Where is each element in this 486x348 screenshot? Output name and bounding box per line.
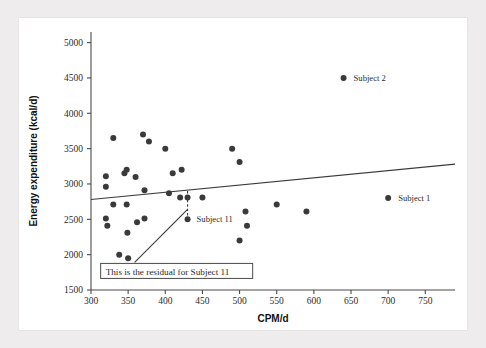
x-tick-label: 600 [307, 296, 322, 306]
data-point [237, 238, 243, 244]
data-point [237, 159, 243, 165]
y-tick-label: 2000 [64, 250, 83, 260]
data-point [103, 216, 109, 222]
x-tick-label: 650 [344, 296, 359, 306]
data-point [185, 194, 191, 200]
x-axis-title: CPM/d [257, 313, 288, 324]
data-point [116, 252, 122, 258]
y-tick-label: 3000 [64, 179, 83, 189]
data-point [274, 201, 280, 207]
y-axis-title: Energy expenditure (kcal/d) [28, 95, 39, 226]
data-point [141, 187, 147, 193]
y-tick-label: 3500 [64, 144, 83, 154]
data-point [133, 174, 139, 180]
highlighted-data-point [185, 216, 191, 222]
y-tick-label: 1500 [64, 285, 83, 295]
data-point [124, 201, 130, 207]
data-point [134, 219, 140, 225]
data-point [199, 194, 205, 200]
data-point [140, 131, 146, 137]
data-point [124, 167, 130, 173]
data-point [124, 230, 130, 236]
data-point [110, 135, 116, 141]
data-point [146, 139, 152, 145]
data-point [141, 216, 147, 222]
highlighted-data-point [385, 195, 391, 201]
data-point [170, 170, 176, 176]
data-point [103, 173, 109, 179]
data-point [104, 223, 110, 229]
y-tick-label: 4000 [64, 109, 83, 119]
x-tick-label: 450 [195, 296, 210, 306]
data-point [110, 201, 116, 207]
y-tick-label: 4500 [64, 73, 83, 83]
data-points-group [103, 131, 310, 261]
callout-label: This is the residual for Subject 11 [106, 267, 230, 277]
data-point [303, 209, 309, 215]
x-tick-label: 700 [381, 296, 396, 306]
x-tick-label: 400 [158, 296, 173, 306]
data-point [179, 167, 185, 173]
x-tick-label: 300 [84, 296, 99, 306]
data-point [244, 223, 250, 229]
figure-container: 15002000250030003500400045005000 3003504… [0, 0, 486, 348]
data-point [166, 190, 172, 196]
data-point [243, 209, 249, 215]
data-point [125, 255, 131, 261]
x-axis-ticks: 300350400450500550600650700750 [84, 290, 433, 306]
highlighted-points-group: Subject 2Subject 1Subject 11 [185, 73, 431, 224]
point-label: Subject 2 [354, 73, 386, 83]
data-point [162, 146, 168, 152]
y-axis-ticks: 15002000250030003500400045005000 [64, 38, 91, 295]
data-point [229, 146, 235, 152]
x-tick-label: 350 [121, 296, 135, 306]
x-tick-label: 500 [232, 296, 247, 306]
plot-plate: 15002000250030003500400045005000 3003504… [19, 18, 467, 330]
x-tick-label: 750 [418, 296, 433, 306]
y-tick-label: 2500 [64, 215, 83, 225]
x-tick-label: 550 [270, 296, 285, 306]
highlighted-data-point [341, 75, 347, 81]
data-point [103, 184, 109, 190]
point-label: Subject 1 [398, 193, 430, 203]
scatter-chart: 15002000250030003500400045005000 3003504… [19, 18, 467, 330]
data-point [177, 194, 183, 200]
point-label: Subject 11 [197, 214, 233, 224]
y-tick-label: 5000 [64, 38, 83, 48]
